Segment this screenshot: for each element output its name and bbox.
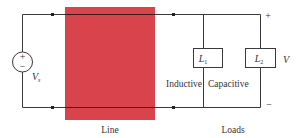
source-minus: − (20, 61, 26, 72)
load-type-inductive: Inductive (166, 79, 202, 89)
terminal-dot-bottom-right (172, 106, 175, 109)
output-voltage-label: V (283, 54, 291, 65)
terminal-dot-top-right (172, 13, 175, 16)
output-plus: + (265, 10, 271, 21)
terminal-dot-top-left (51, 13, 54, 16)
line-label: Line (101, 125, 118, 135)
terminal-dot-bottom-left (51, 106, 54, 109)
source-label: Vs (32, 71, 41, 83)
circuit-diagram: + − Vs L1 L2 Inductive Capacitive + − V … (0, 0, 303, 138)
voltage-source-icon: + − (13, 51, 33, 72)
load-type-capacitive: Capacitive (208, 79, 249, 89)
output-minus: − (266, 99, 272, 110)
line-block (65, 7, 155, 120)
loads-label: Loads (221, 125, 245, 135)
